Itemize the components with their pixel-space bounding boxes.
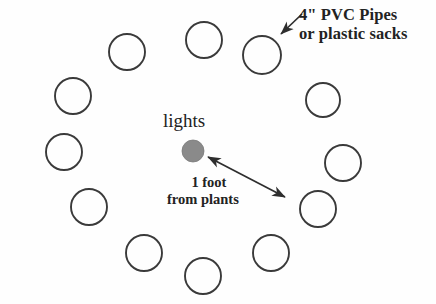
- pipe-circle: [300, 191, 336, 227]
- pipe-circle: [109, 34, 145, 70]
- distance-label-line2: from plants: [167, 191, 239, 208]
- pipe-circle: [306, 83, 340, 117]
- pipe-circle: [55, 78, 91, 114]
- distance-label: 1 footfrom plants: [179, 174, 239, 208]
- pipe-circle: [126, 235, 162, 271]
- pipe-circle: [186, 22, 222, 58]
- pipe-circle: [71, 189, 107, 225]
- diagram-svg: [0, 0, 436, 304]
- pipe-circle: [325, 145, 361, 181]
- pipe-circle: [243, 36, 281, 74]
- pipe-circle: [253, 235, 289, 271]
- pipe-circle: [46, 134, 82, 170]
- pvc-pipes-label-line1: 4" PVC Pipes: [299, 5, 397, 24]
- lights-label: lights: [163, 110, 205, 132]
- diagram-canvas: 4" PVC Pipesor plastic sacks lights 1 fo…: [0, 0, 436, 304]
- pvc-pipes-label: 4" PVC Pipesor plastic sacks: [299, 5, 408, 44]
- distance-label-line1: 1 foot: [191, 174, 226, 190]
- center-light-dot: [182, 140, 204, 162]
- pipe-circle-group: [46, 22, 361, 294]
- pvc-pipes-label-line2: or plastic sacks: [299, 24, 408, 43]
- pipe-circle: [185, 258, 221, 294]
